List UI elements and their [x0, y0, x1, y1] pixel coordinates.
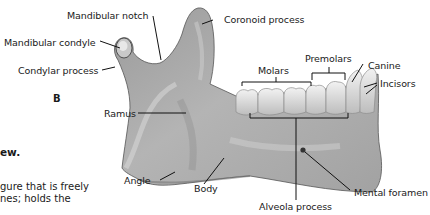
- side-heading-fragment: ew.: [0, 146, 20, 158]
- side-text-line-1: gure that is freely: [0, 181, 89, 193]
- side-text-line-2: nes; holds the: [0, 193, 71, 205]
- label-mandibular-condyle: Mandibular condyle: [4, 37, 96, 48]
- premolar-2: [306, 85, 326, 114]
- molar-2: [258, 88, 284, 115]
- label-body: Body: [194, 183, 218, 194]
- label-alveolar-process: Alveola process: [259, 201, 332, 212]
- mandible-figure: Mandibular notch Coronoid process Mandib…: [0, 0, 430, 215]
- label-premolars: Premolars: [305, 53, 352, 64]
- label-mental-foramen: Mental foramen: [354, 187, 428, 198]
- molar-1: [284, 88, 306, 115]
- premolar-1: [326, 81, 346, 114]
- panel-letter: B: [53, 93, 61, 104]
- label-incisors: Incisors: [380, 78, 416, 89]
- incisor-teeth: [360, 68, 377, 114]
- label-mandibular-notch: Mandibular notch: [67, 10, 148, 21]
- molar-3: [236, 90, 258, 115]
- label-coronoid-process: Coronoid process: [224, 14, 304, 25]
- label-angle: Angle: [124, 175, 151, 186]
- label-molars: Molars: [258, 65, 289, 76]
- label-ramus: Ramus: [104, 108, 136, 119]
- label-condylar-process: Condylar process: [18, 65, 98, 76]
- mental-foramen-hole: [300, 147, 305, 152]
- label-canine: Canine: [368, 60, 400, 71]
